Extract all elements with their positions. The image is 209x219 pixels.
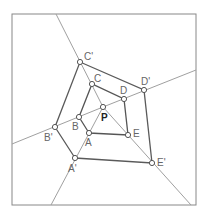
diagram-root: PABCDEA'B'C'D'E' — [0, 0, 209, 219]
point-b — [76, 114, 81, 119]
point-d — [121, 96, 126, 101]
point-a — [86, 130, 91, 135]
label-a: A — [85, 137, 92, 148]
label-d-prime: D' — [141, 76, 150, 87]
point-a-prime — [72, 155, 77, 160]
pentagon-projection-diagram: PABCDEA'B'C'D'E' — [0, 0, 209, 219]
point-b-prime — [52, 124, 57, 129]
label-b-prime: B' — [44, 132, 53, 143]
label-e-prime: E' — [157, 157, 166, 168]
label-c-prime: C' — [84, 51, 93, 62]
label-b: B — [72, 121, 79, 132]
point-c-prime — [77, 59, 82, 64]
labels-group: PABCDEA'B'C'D'E' — [44, 51, 166, 174]
label-a-prime: A' — [68, 163, 77, 174]
point-d-prime — [141, 87, 146, 92]
label-c: C — [94, 73, 101, 84]
label-p: P — [101, 112, 108, 123]
label-e: E — [133, 128, 140, 139]
point-p — [100, 104, 105, 109]
point-e-prime — [149, 160, 154, 165]
label-d: D — [120, 85, 127, 96]
point-e — [125, 132, 130, 137]
